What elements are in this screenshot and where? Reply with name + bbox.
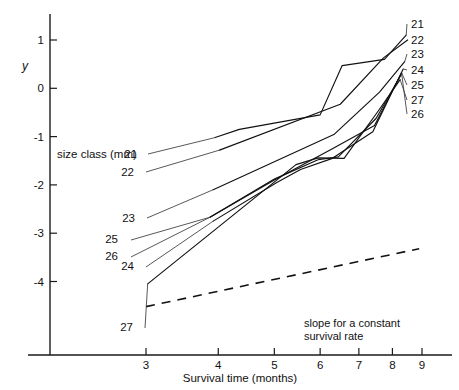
series-line-22 bbox=[220, 40, 408, 150]
right-series-labels-group: 21222324252726 bbox=[400, 18, 424, 120]
series-line-26 bbox=[210, 74, 402, 217]
y-tick-label-1: 1 bbox=[38, 34, 44, 46]
series-right-label-24: 24 bbox=[411, 64, 424, 76]
series-right-label-21: 21 bbox=[411, 18, 424, 30]
series-left-label-25: 25 bbox=[105, 233, 118, 245]
x-tick-label-9: 9 bbox=[419, 359, 425, 371]
x-tick-label-4: 4 bbox=[215, 359, 222, 371]
series-right-label-22: 22 bbox=[411, 34, 424, 46]
series-left-label-22: 22 bbox=[121, 166, 134, 178]
reference-line-group: slope for a constant survival rate bbox=[146, 249, 419, 342]
y-tick-label--3: -3 bbox=[34, 227, 44, 239]
x-axis-title: Survival time (months) bbox=[183, 372, 298, 384]
x-tick-group: 3456789 bbox=[143, 348, 425, 371]
series-right-label-27: 27 bbox=[411, 94, 424, 106]
constant-survival-rate-line bbox=[146, 249, 419, 307]
reference-line-label-line1: slope for a constant bbox=[304, 317, 400, 329]
y-tick-label--2: -2 bbox=[34, 179, 44, 191]
x-tick-label-7: 7 bbox=[356, 359, 362, 371]
x-tick-label-3: 3 bbox=[143, 359, 149, 371]
y-tick-label-0: 0 bbox=[38, 82, 44, 94]
series-right-label-23: 23 bbox=[411, 48, 424, 60]
axes-group bbox=[28, 14, 452, 355]
series-left-label-24: 24 bbox=[121, 260, 134, 272]
reference-line-label-line2: survival rate bbox=[304, 330, 363, 342]
x-tick-label-5: 5 bbox=[271, 359, 277, 371]
survival-time-line-chart: 10-1-2-3-4 3456789 y Survival time (mont… bbox=[0, 0, 459, 390]
y-tick-label--4: -4 bbox=[34, 276, 45, 288]
series-left-label-23: 23 bbox=[122, 212, 135, 224]
chart-figure: 10-1-2-3-4 3456789 y Survival time (mont… bbox=[0, 0, 459, 390]
series-right-label-26: 26 bbox=[411, 108, 424, 120]
series-left-label-27: 27 bbox=[120, 321, 133, 333]
x-tick-label-8: 8 bbox=[389, 359, 395, 371]
series-left-label-26: 26 bbox=[105, 250, 118, 262]
y-axis-title: y bbox=[21, 59, 29, 73]
series-left-label-21: 21 bbox=[124, 148, 137, 160]
y-tick-group: 10-1-2-3-4 bbox=[34, 34, 57, 288]
series-right-label-25: 25 bbox=[411, 79, 424, 91]
series-line-27 bbox=[148, 80, 400, 284]
series-line-25 bbox=[210, 73, 402, 217]
x-tick-label-6: 6 bbox=[317, 359, 323, 371]
y-tick-label--1: -1 bbox=[34, 131, 44, 143]
